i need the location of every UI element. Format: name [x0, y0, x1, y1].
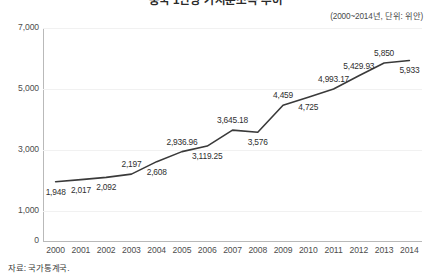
- x-axis-tick-label: 2004: [147, 245, 166, 255]
- y-axis-tick-label: 0: [34, 235, 39, 245]
- data-point-label: 3,576: [248, 137, 268, 147]
- x-axis-tick-label: 2013: [375, 245, 394, 255]
- y-axis-tick-label: 7,000: [18, 22, 39, 32]
- data-point-label: 4,459: [273, 90, 293, 100]
- data-point-label: 2,608: [147, 167, 167, 177]
- chart-subtitle: (2000~2014년, 단위: 위안): [330, 9, 423, 21]
- x-axis-tick-label: 2005: [173, 245, 192, 255]
- page-title: 중국 1인당 가처분소득 추이: [0, 0, 431, 7]
- x-axis-tick-label: 2002: [97, 245, 116, 255]
- data-point-label: 2,936.96: [166, 137, 197, 147]
- x-axis-tick-label: 2001: [72, 245, 91, 255]
- y-axis-tick-label: 5,000: [18, 83, 39, 93]
- source-note: 자료: 국가통계국.: [8, 261, 69, 273]
- data-point-label: 3,119.25: [192, 151, 222, 161]
- x-axis-tick-label: 2000: [46, 245, 65, 255]
- x-axis-line: [43, 241, 422, 242]
- data-point-label: 2,017: [71, 185, 91, 195]
- x-axis-tick-labels: 2000200120022003200420052006200720082009…: [43, 245, 422, 259]
- x-axis-tick-label: 2008: [248, 245, 267, 255]
- x-axis-tick-label: 2012: [349, 245, 368, 255]
- data-point-label: 2,197: [121, 159, 141, 169]
- data-point-label: 3,645.18: [217, 115, 248, 125]
- data-point-label: 5,850: [374, 48, 394, 58]
- data-point-label: 5,933: [399, 65, 419, 75]
- data-point-label: 5,429.93: [343, 61, 374, 71]
- y-axis-tick-label: 3,000: [18, 144, 39, 154]
- x-axis-tick-label: 2007: [223, 245, 242, 255]
- x-axis-tick-label: 2009: [274, 245, 293, 255]
- data-point-label: 1,948: [46, 187, 66, 197]
- x-axis-tick-label: 2014: [400, 245, 419, 255]
- y-axis-tick-label: 1,000: [18, 205, 39, 215]
- y-axis-tick-labels: 01,0003,0005,0007,000: [0, 0, 39, 279]
- x-axis-tick-label: 2006: [198, 245, 217, 255]
- x-axis-tick-label: 2011: [325, 245, 343, 255]
- data-point-label: 4,725: [298, 102, 318, 112]
- data-point-label: 2,092: [96, 182, 116, 192]
- x-axis-tick-label: 2010: [299, 245, 318, 255]
- data-point-label: 4,993.17: [318, 74, 349, 84]
- x-axis-tick-label: 2003: [122, 245, 141, 255]
